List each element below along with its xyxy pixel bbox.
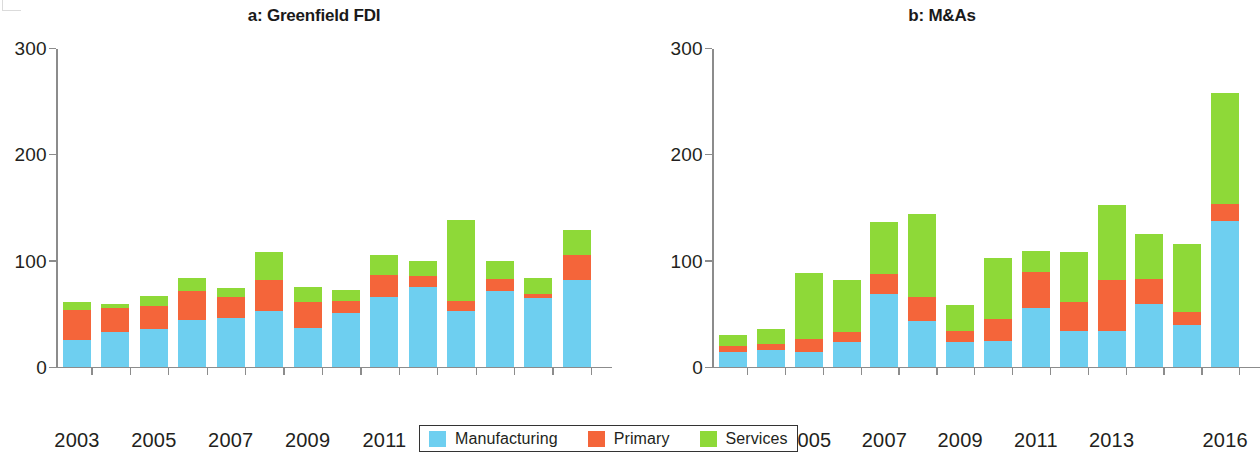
- panel-b-title: b: M&As: [628, 6, 1256, 26]
- x-axis-tick: [322, 368, 323, 375]
- bar-2016: [1211, 93, 1239, 366]
- x-axis-label-2011: 2011: [363, 429, 407, 452]
- y-axis-tick: [49, 367, 56, 369]
- x-axis-tick: [898, 368, 899, 375]
- bar-segment-manufacturing: [370, 297, 398, 366]
- x-axis-tick: [283, 368, 284, 375]
- bar-segment-manufacturing: [908, 321, 936, 367]
- bar-segment-primary: [332, 301, 360, 314]
- x-axis-tick: [130, 368, 131, 375]
- y-axis-line-b: [712, 49, 714, 368]
- bar-segment-primary: [946, 331, 974, 342]
- bar-segment-manufacturing: [217, 318, 245, 367]
- bar-segment-primary: [140, 306, 168, 329]
- bar-2007: [870, 222, 898, 367]
- bar-segment-services: [833, 280, 861, 332]
- bar-2015: [524, 278, 552, 366]
- bar-segment-primary: [1135, 279, 1163, 303]
- bar-2010: [984, 258, 1012, 366]
- bar-segment-services: [332, 290, 360, 301]
- bar-2005: [140, 296, 168, 366]
- panel-a-title: a: Greenfield FDI: [0, 6, 628, 26]
- bar-segment-manufacturing: [294, 328, 322, 366]
- plot-area-b: 01002003002003200520072009201120132016: [712, 49, 1260, 368]
- bar-segment-services: [409, 261, 437, 276]
- bar-segment-services: [870, 222, 898, 274]
- bar-segment-primary: [1060, 302, 1088, 332]
- y-axis-tick: [49, 154, 56, 156]
- bar-segment-manufacturing: [1173, 325, 1201, 366]
- y-axis-line-a: [56, 49, 58, 368]
- bar-segment-primary: [870, 274, 898, 294]
- bar-2006: [833, 280, 861, 366]
- bar-segment-services: [370, 255, 398, 275]
- bar-segment-services: [984, 258, 1012, 319]
- bar-2012: [1060, 252, 1088, 367]
- x-axis-tick: [591, 368, 592, 375]
- bar-2011: [1022, 251, 1050, 367]
- bar-segment-services: [1022, 251, 1050, 272]
- bar-segment-services: [1060, 252, 1088, 302]
- bar-segment-manufacturing: [757, 350, 785, 367]
- bar-segment-manufacturing: [946, 342, 974, 366]
- bar-segment-services: [1211, 93, 1239, 204]
- bar-segment-manufacturing: [1211, 221, 1239, 367]
- bar-segment-services: [908, 214, 936, 297]
- bar-segment-primary: [486, 279, 514, 291]
- legend-item-services: Services: [700, 430, 788, 448]
- bar-segment-primary: [255, 280, 283, 311]
- x-axis-tick: [207, 368, 208, 375]
- bar-segment-primary: [101, 308, 129, 332]
- y-axis-tick: [705, 154, 712, 156]
- bar-segment-manufacturing: [563, 280, 591, 366]
- x-axis-tick: [552, 368, 553, 375]
- bar-2013: [1098, 205, 1126, 367]
- panel-greenfield-fdi: a: Greenfield FDI 0100200300200320052007…: [0, 0, 628, 410]
- y-axis-label: 200: [670, 144, 703, 166]
- x-axis-label-2009: 2009: [285, 429, 330, 452]
- legend-label-primary: Primary: [614, 430, 670, 448]
- bar-2013: [447, 220, 475, 367]
- bar-2008: [908, 214, 936, 366]
- bar-segment-services: [946, 305, 974, 332]
- x-axis-tick: [936, 368, 937, 375]
- bar-segment-primary: [1022, 272, 1050, 308]
- bar-segment-primary: [795, 339, 823, 352]
- bar-segment-manufacturing: [984, 341, 1012, 367]
- x-axis-tick: [1050, 368, 1051, 375]
- x-axis-tick: [360, 368, 361, 375]
- bar-segment-manufacturing: [1098, 331, 1126, 366]
- x-axis-tick: [823, 368, 824, 375]
- y-axis-tick: [49, 260, 56, 262]
- chart-legend: ManufacturingPrimaryServices: [419, 425, 798, 452]
- bar-segment-services: [178, 278, 206, 291]
- bar-2007: [217, 288, 245, 367]
- bar-2009: [294, 287, 322, 367]
- bar-2014: [1135, 234, 1163, 367]
- bar-segment-services: [563, 230, 591, 254]
- x-axis-tick: [476, 368, 477, 375]
- x-axis-label-2005: 2005: [131, 429, 176, 452]
- bar-segment-services: [795, 273, 823, 339]
- bar-segment-primary: [294, 302, 322, 329]
- y-axis-tick: [705, 367, 712, 369]
- y-axis-label: 0: [692, 357, 703, 379]
- bar-segment-services: [140, 296, 168, 306]
- x-axis-label-2007: 2007: [862, 429, 907, 452]
- x-axis-tick: [245, 368, 246, 375]
- bar-segment-services: [255, 252, 283, 281]
- x-axis-label-2011: 2011: [1014, 429, 1058, 452]
- bar-segment-services: [294, 287, 322, 302]
- y-axis-label: 0: [36, 357, 47, 379]
- bar-segment-manufacturing: [332, 313, 360, 366]
- bar-segment-primary: [63, 310, 91, 340]
- bar-segment-manufacturing: [1135, 304, 1163, 367]
- y-axis-label: 100: [14, 251, 47, 273]
- x-axis-label-2003: 2003: [54, 429, 99, 452]
- bar-segment-services: [486, 261, 514, 279]
- bar-segment-primary: [1098, 280, 1126, 331]
- bar-2003: [719, 335, 747, 367]
- bar-segment-primary: [1211, 204, 1239, 221]
- legend-swatch-primary: [588, 431, 605, 447]
